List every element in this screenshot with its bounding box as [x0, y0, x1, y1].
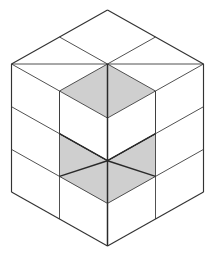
isometric-cube-figure [0, 0, 215, 274]
isometric-figure-container [0, 0, 215, 274]
